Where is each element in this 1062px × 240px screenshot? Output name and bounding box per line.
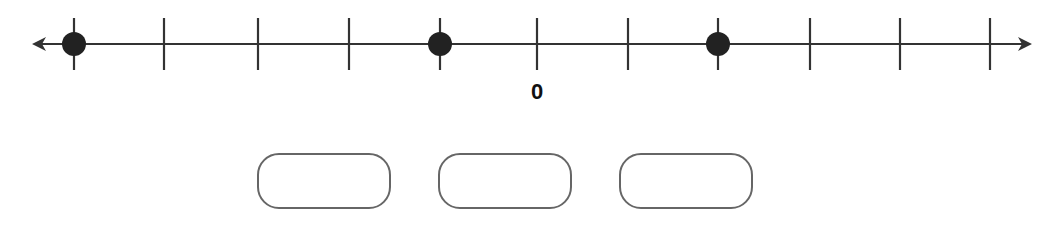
answer-box-3[interactable] — [619, 153, 753, 209]
plotted-point — [428, 32, 452, 56]
plotted-point — [62, 32, 86, 56]
zero-label: 0 — [531, 79, 543, 105]
plotted-point — [706, 32, 730, 56]
answer-box-2[interactable] — [438, 153, 572, 209]
answer-box-1[interactable] — [257, 153, 391, 209]
